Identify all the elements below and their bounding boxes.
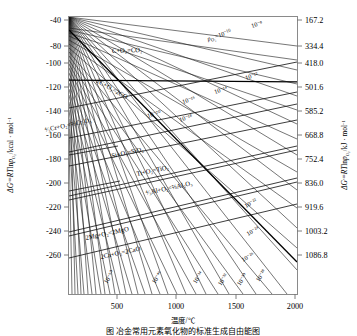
y-right-tick-label: 752.4 — [305, 155, 323, 164]
y-left-tick-label: -180 — [46, 155, 61, 164]
y-right-tick-label: 836.0 — [305, 179, 323, 188]
x-tick-label: 2000 — [287, 302, 303, 311]
ellingham-diagram-figure: -40 -80 -100 -120 -140 -160 -180 -200 -2… — [0, 0, 357, 336]
y-right-tick-label: 585.2 — [305, 107, 323, 116]
y-right-tick-label: 167.2 — [305, 16, 323, 25]
y-left-tick-label: -220 — [46, 203, 61, 212]
figure-caption: 图 冶金常用元素氧化物的标准生成自由能图 — [106, 326, 260, 336]
y-left-tick-label: -160 — [46, 131, 61, 140]
y-right-tick-label: 1086.8 — [305, 251, 328, 260]
y-left-tick-label: -40 — [50, 16, 61, 25]
y-right-tick-label: 919.6 — [305, 203, 323, 212]
x-tick-label: 1500 — [228, 302, 244, 311]
y-right-tick-label: 501.6 — [305, 83, 323, 92]
diagram-canvas: -40 -80 -100 -120 -140 -160 -180 -200 -2… — [0, 0, 357, 336]
y-right-tick-label: 668.8 — [305, 131, 323, 140]
y-left-tick-label: -260 — [46, 251, 61, 260]
svg-text:ΔG◦=RTlnpO₂/kcal · mol−1: ΔG◦=RTlnpO₂/kcal · mol−1 — [6, 117, 16, 194]
y-right-tick-label: 418.0 — [305, 59, 323, 68]
y-left-tick-label: -240 — [46, 227, 61, 236]
x-axis-label: 温度/℃ — [171, 316, 195, 325]
reaction-label-co2: C+O₂=CO₂ — [112, 46, 143, 54]
y-right-tick-label: 1003.2 — [305, 227, 328, 236]
y-right-tick-label: 334.4 — [305, 42, 323, 51]
y-left-tick-label: -140 — [46, 107, 61, 116]
x-tick-label: 500 — [111, 302, 123, 311]
x-tick-label: 1000 — [168, 302, 184, 311]
y-left-tick-label: -200 — [46, 179, 61, 188]
y-left-tick-label: -100 — [46, 59, 61, 68]
y-left-tick-label: -120 — [46, 83, 61, 92]
y-left-tick-label: -80 — [50, 42, 61, 51]
y-left-axis-label: ΔG◦=RTlnpO₂/kcal · mol−1 — [6, 117, 16, 194]
